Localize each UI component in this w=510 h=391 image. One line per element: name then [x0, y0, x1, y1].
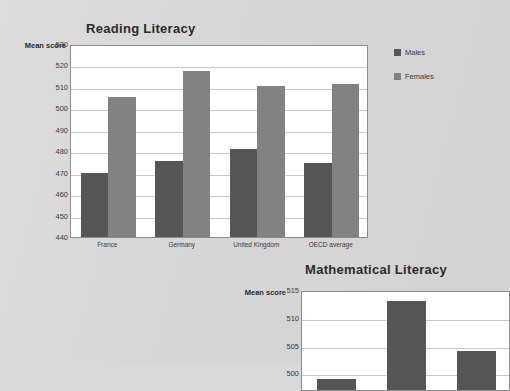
x-tick-label: France	[70, 242, 145, 249]
y-tick-label: 510	[50, 84, 68, 92]
chart-title-mathematical-literacy: Mathematical Literacy	[305, 262, 447, 277]
bar-females-germany	[183, 71, 211, 237]
y-tick-label: 480	[50, 148, 68, 156]
y-tick-label: 515	[281, 287, 299, 295]
legend-item-males[interactable]: Males	[394, 48, 425, 57]
y-tick-label: 500	[281, 370, 299, 378]
bar-males-oecd-average	[304, 163, 332, 237]
bar-males-france	[317, 379, 356, 390]
bar-males-germany	[155, 161, 183, 237]
y-tick-label: 500	[50, 105, 68, 113]
y-tick-label: 505	[281, 343, 299, 351]
legend-label: Males	[405, 48, 425, 57]
x-tick-label: Germany	[145, 242, 220, 249]
y-tick-label: 450	[50, 213, 68, 221]
y-axis-label-math: Mean score	[238, 288, 286, 297]
plot-area-reading	[70, 45, 368, 238]
y-tick-label: 530	[50, 41, 68, 49]
bar-females-united-kingdom	[257, 86, 285, 237]
gridline	[71, 67, 367, 68]
y-tick-label: 470	[50, 170, 68, 178]
bar-males-germany	[387, 301, 426, 390]
x-tick-label: OECD average	[294, 242, 369, 249]
legend-item-females[interactable]: Females	[394, 72, 434, 81]
chart-reading-literacy: Reading Literacy Mean score 530520510500…	[0, 0, 510, 258]
x-tick-label: United Kingdom	[219, 242, 294, 249]
bar-males-france	[81, 173, 109, 237]
y-tick-label: 490	[50, 127, 68, 135]
gridline	[71, 89, 367, 90]
y-tick-label: 440	[50, 234, 68, 242]
bar-males-united-kingdom	[230, 149, 258, 237]
y-tick-label: 510	[281, 315, 299, 323]
chart-mathematical-literacy: Mathematical Literacy Mean score 5155105…	[0, 255, 510, 363]
y-tick-label: 520	[50, 62, 68, 70]
plot-area-math	[301, 291, 510, 391]
chart-title-reading-literacy: Reading Literacy	[86, 21, 196, 36]
y-tick-label: 460	[50, 191, 68, 199]
legend-swatch-males-icon	[394, 49, 401, 56]
legend-label: Females	[405, 72, 434, 81]
bar-females-oecd-average	[332, 84, 360, 237]
legend-swatch-females-icon	[394, 73, 401, 80]
bar-males-united-kingdom	[457, 351, 496, 390]
bar-females-france	[108, 97, 136, 237]
